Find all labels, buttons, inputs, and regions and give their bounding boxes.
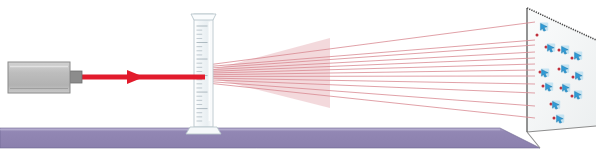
- cylinder-lip: [191, 14, 216, 20]
- diffraction-figure: Laser diffraction through a graduated cy…: [0, 0, 603, 153]
- arrow-marker-icon: [552, 100, 560, 109]
- ray-impact-dot: [558, 49, 561, 52]
- ray-impact-dot: [558, 68, 561, 71]
- laser-beam: [82, 70, 205, 84]
- arrow-marker-icon: [561, 45, 569, 54]
- ray-fan-glow: [207, 38, 330, 108]
- ray-impact-dot: [571, 95, 574, 98]
- ray-impact-dot: [571, 57, 574, 60]
- diffracted-rays: [207, 22, 535, 118]
- ray-impact-dot: [572, 76, 575, 79]
- table-surface: [0, 128, 540, 148]
- arrow-marker-icon: [540, 22, 548, 31]
- arrow-marker-icon: [561, 64, 569, 73]
- arrow-marker-icon: [574, 51, 582, 60]
- ray-impact-dot: [553, 117, 556, 120]
- laser-source: [8, 62, 82, 93]
- cylinder-base: [186, 127, 221, 134]
- laser-nozzle: [70, 71, 82, 83]
- arrow-marker-icon: [575, 71, 583, 80]
- beam-direction-arrow-icon: [127, 70, 144, 84]
- ray-impact-dot: [542, 85, 545, 88]
- arrow-marker-icon: [547, 43, 555, 52]
- arrow-marker-icon: [562, 83, 570, 92]
- observation-screen: [527, 8, 596, 148]
- arrow-marker-icon: [541, 68, 549, 77]
- ray-impact-dot: [536, 34, 539, 37]
- arrow-marker-icon: [574, 90, 582, 99]
- arrow-marker-icon: [545, 82, 553, 91]
- figure-canvas: [0, 0, 603, 153]
- lab-table: [0, 128, 540, 148]
- arrow-marker-icon: [556, 114, 564, 123]
